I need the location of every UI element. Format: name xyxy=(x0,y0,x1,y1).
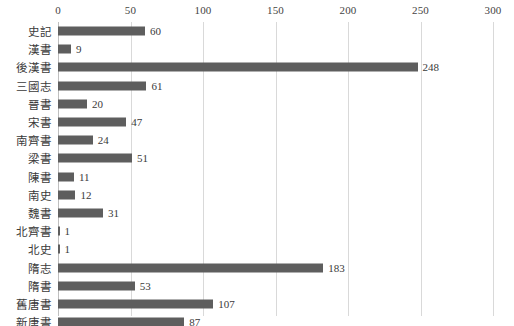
category-label: 舊唐書 xyxy=(16,296,52,312)
x-tick-label: 250 xyxy=(412,4,429,16)
x-tick-label: 150 xyxy=(267,4,284,16)
bar-group: 9 xyxy=(58,45,82,54)
category-label: 北史 xyxy=(28,241,52,257)
bar-value-label: 11 xyxy=(79,171,90,182)
bar xyxy=(58,27,145,36)
bar-value-label: 87 xyxy=(189,317,200,326)
category-label: 梁書 xyxy=(28,150,52,166)
category-label: 南齊書 xyxy=(16,132,52,148)
bar-group: 53 xyxy=(58,281,151,290)
bar-group: 248 xyxy=(58,63,439,72)
bar xyxy=(58,281,135,290)
category-label: 三國志 xyxy=(16,78,52,94)
category-label: 北齊書 xyxy=(16,223,52,239)
bar xyxy=(58,81,146,90)
category-label: 新唐書 xyxy=(16,314,52,326)
category-label: 隋志 xyxy=(28,260,52,276)
bar-value-label: 1 xyxy=(65,226,71,237)
bar-group: 1 xyxy=(58,245,70,254)
x-tick-label: 200 xyxy=(339,4,356,16)
bar xyxy=(58,318,184,326)
chart-row: 梁書51 xyxy=(0,149,514,167)
chart-row: 晉書20 xyxy=(0,95,514,113)
bar xyxy=(58,263,323,272)
bar-group: 87 xyxy=(58,318,200,326)
bar-group: 12 xyxy=(58,190,91,199)
bar xyxy=(58,154,132,163)
chart-row: 北史1 xyxy=(0,240,514,258)
category-label: 隋書 xyxy=(28,278,52,294)
chart-row: 隋書53 xyxy=(0,277,514,295)
chart-row: 史記60 xyxy=(0,22,514,40)
bar-value-label: 31 xyxy=(108,208,119,219)
bar-group: 47 xyxy=(58,118,142,127)
chart-row: 南史12 xyxy=(0,186,514,204)
bar-group: 51 xyxy=(58,154,148,163)
bar-value-label: 107 xyxy=(218,299,235,310)
bar-value-label: 248 xyxy=(423,62,440,73)
bar xyxy=(58,300,213,309)
category-label: 魏書 xyxy=(28,205,52,221)
category-label: 宋書 xyxy=(28,114,52,130)
bar-chart: 050100150200250300 史記60漢書9後漢書248三國志61晉書2… xyxy=(0,0,514,326)
bar-group: 31 xyxy=(58,209,119,218)
chart-row: 隋志183 xyxy=(0,259,514,277)
bar-value-label: 12 xyxy=(80,189,91,200)
bar-value-label: 60 xyxy=(150,26,161,37)
bar xyxy=(58,227,60,236)
bar-value-label: 24 xyxy=(98,135,109,146)
x-tick-label: 0 xyxy=(55,4,61,16)
category-label: 陳書 xyxy=(28,169,52,185)
bar xyxy=(58,45,71,54)
category-label: 後漢書 xyxy=(16,59,52,75)
bar-value-label: 183 xyxy=(328,262,345,273)
category-label: 史記 xyxy=(28,23,52,39)
chart-row: 魏書31 xyxy=(0,204,514,222)
bar-group: 24 xyxy=(58,136,109,145)
chart-row: 舊唐書107 xyxy=(0,295,514,313)
bar-group: 1 xyxy=(58,227,70,236)
bar xyxy=(58,63,418,72)
bar-group: 20 xyxy=(58,99,103,108)
category-label: 晉書 xyxy=(28,96,52,112)
bar-group: 60 xyxy=(58,27,161,36)
chart-row: 後漢書248 xyxy=(0,58,514,76)
x-tick-label: 100 xyxy=(194,4,211,16)
bar xyxy=(58,99,87,108)
bar xyxy=(58,172,74,181)
bar-value-label: 47 xyxy=(131,117,142,128)
bar-group: 183 xyxy=(58,263,345,272)
bar-value-label: 61 xyxy=(151,80,162,91)
bar-value-label: 51 xyxy=(137,153,148,164)
bar-value-label: 20 xyxy=(92,98,103,109)
bar xyxy=(58,118,126,127)
bar xyxy=(58,209,103,218)
x-tick-label: 50 xyxy=(125,4,136,16)
chart-row: 陳書11 xyxy=(0,168,514,186)
chart-row: 漢書9 xyxy=(0,40,514,58)
bar-value-label: 53 xyxy=(140,280,151,291)
bar-group: 61 xyxy=(58,81,162,90)
chart-row: 三國志61 xyxy=(0,77,514,95)
x-tick-label: 300 xyxy=(484,4,501,16)
bar xyxy=(58,245,60,254)
bar-group: 107 xyxy=(58,300,235,309)
chart-row: 宋書47 xyxy=(0,113,514,131)
category-label: 南史 xyxy=(28,187,52,203)
bar-value-label: 1 xyxy=(65,244,71,255)
bar xyxy=(58,190,75,199)
bar-group: 11 xyxy=(58,172,90,181)
chart-row: 南齊書24 xyxy=(0,131,514,149)
bar-value-label: 9 xyxy=(76,44,82,55)
chart-row: 北齊書1 xyxy=(0,222,514,240)
category-label: 漢書 xyxy=(28,41,52,57)
chart-row: 新唐書87 xyxy=(0,313,514,326)
bar xyxy=(58,136,93,145)
